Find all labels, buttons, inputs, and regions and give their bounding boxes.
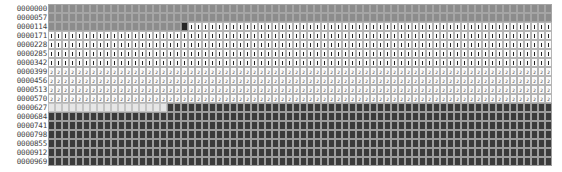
cluster-cell-d[interactable]	[230, 121, 237, 130]
cluster-cell-d[interactable]	[167, 103, 174, 112]
cluster-cell-f1[interactable]	[118, 40, 125, 49]
cluster-cell-u[interactable]	[153, 22, 160, 31]
cluster-cell-f2[interactable]: 2	[447, 85, 454, 94]
cluster-cell-u[interactable]	[475, 13, 482, 22]
cluster-cell-d[interactable]	[69, 148, 76, 157]
cluster-cell-f1[interactable]	[258, 40, 265, 49]
cluster-cell-f1[interactable]	[272, 58, 279, 67]
cluster-cell-d[interactable]	[188, 157, 195, 166]
cluster-cell-f1[interactable]	[83, 31, 90, 40]
cluster-cell-d[interactable]	[230, 139, 237, 148]
cluster-cell-f1[interactable]	[335, 58, 342, 67]
cluster-cell-d[interactable]	[118, 139, 125, 148]
cluster-cell-d[interactable]	[55, 112, 62, 121]
cluster-cell-f2[interactable]: 2	[104, 67, 111, 76]
cluster-cell-u[interactable]	[433, 13, 440, 22]
cluster-cell-u[interactable]	[328, 4, 335, 13]
cluster-cell-f1[interactable]	[314, 40, 321, 49]
cluster-cell-f1[interactable]	[419, 31, 426, 40]
cluster-cell-f1[interactable]	[48, 40, 55, 49]
cluster-cell-d[interactable]	[370, 130, 377, 139]
cluster-cell-u[interactable]	[223, 4, 230, 13]
cluster-cell-f1[interactable]	[48, 31, 55, 40]
cluster-cell-d[interactable]	[167, 130, 174, 139]
cluster-cell-d[interactable]	[426, 121, 433, 130]
cluster-cell-f1[interactable]	[335, 22, 342, 31]
cluster-cell-f1[interactable]	[468, 31, 475, 40]
cluster-cell-f2[interactable]: 2	[48, 76, 55, 85]
cluster-cell-d[interactable]	[195, 103, 202, 112]
cluster-cell-u[interactable]	[160, 22, 167, 31]
cluster-cell-d[interactable]	[531, 139, 538, 148]
cluster-cell-u[interactable]	[202, 13, 209, 22]
cluster-cell-f2[interactable]: 2	[209, 94, 216, 103]
cluster-cell-d[interactable]	[419, 112, 426, 121]
cluster-cell-d[interactable]	[139, 139, 146, 148]
cluster-cell-d[interactable]	[62, 130, 69, 139]
cluster-cell-f2[interactable]: 2	[265, 85, 272, 94]
cluster-cell-d[interactable]	[300, 121, 307, 130]
cluster-cell-d[interactable]	[517, 130, 524, 139]
cluster-cell-f1[interactable]	[146, 58, 153, 67]
cluster-cell-f2[interactable]: 2	[55, 67, 62, 76]
cluster-cell-f2[interactable]: 2	[258, 94, 265, 103]
cluster-cell-d[interactable]	[160, 148, 167, 157]
cluster-cell-f2[interactable]: 2	[342, 67, 349, 76]
cluster-cell-d[interactable]	[55, 139, 62, 148]
cluster-cell-f2[interactable]: 2	[363, 94, 370, 103]
cluster-cell-d[interactable]	[349, 121, 356, 130]
cluster-cell-d[interactable]	[118, 130, 125, 139]
cluster-cell-d[interactable]	[209, 130, 216, 139]
cluster-cell-u[interactable]	[321, 4, 328, 13]
cluster-cell-f1[interactable]	[293, 49, 300, 58]
cluster-cell-u[interactable]	[125, 22, 132, 31]
cluster-cell-f1[interactable]	[538, 40, 545, 49]
cluster-cell-f1[interactable]	[426, 22, 433, 31]
cluster-cell-f2[interactable]: 2	[356, 67, 363, 76]
cluster-cell-e[interactable]	[69, 103, 76, 112]
cluster-cell-u[interactable]	[230, 13, 237, 22]
cluster-cell-d[interactable]	[97, 157, 104, 166]
cluster-cell-u[interactable]	[468, 13, 475, 22]
cluster-cell-d[interactable]	[195, 130, 202, 139]
cluster-cell-d[interactable]	[146, 112, 153, 121]
cluster-cell-f1[interactable]	[132, 49, 139, 58]
cluster-cell-d[interactable]	[223, 121, 230, 130]
cluster-cell-f2[interactable]: 2	[538, 76, 545, 85]
cluster-cell-f2[interactable]: 2	[223, 67, 230, 76]
cluster-cell-f1[interactable]	[237, 58, 244, 67]
cluster-cell-u[interactable]	[209, 4, 216, 13]
cluster-cell-d[interactable]	[489, 103, 496, 112]
cluster-cell-d[interactable]	[419, 121, 426, 130]
cluster-cell-f2[interactable]: 2	[384, 67, 391, 76]
cluster-cell-f2[interactable]: 2	[132, 94, 139, 103]
cluster-cell-f1[interactable]	[97, 49, 104, 58]
cluster-cell-f2[interactable]: 2	[111, 67, 118, 76]
cluster-cell-d[interactable]	[503, 121, 510, 130]
cluster-cell-d[interactable]	[209, 148, 216, 157]
cluster-cell-u[interactable]	[167, 4, 174, 13]
cluster-cell-f1[interactable]	[531, 31, 538, 40]
cluster-cell-f2[interactable]: 2	[69, 67, 76, 76]
cluster-cell-d[interactable]	[412, 112, 419, 121]
cluster-cell-f1[interactable]	[104, 31, 111, 40]
cluster-cell-f1[interactable]	[307, 40, 314, 49]
cluster-cell-u[interactable]	[426, 13, 433, 22]
cluster-cell-d[interactable]	[524, 112, 531, 121]
cluster-cell-d[interactable]	[496, 121, 503, 130]
cluster-cell-f2[interactable]: 2	[328, 94, 335, 103]
cluster-cell-f1[interactable]	[55, 40, 62, 49]
cluster-cell-u[interactable]	[146, 22, 153, 31]
cluster-cell-f1[interactable]	[83, 40, 90, 49]
cluster-cell-f2[interactable]: 2	[503, 94, 510, 103]
cluster-cell-u[interactable]	[76, 4, 83, 13]
cluster-cell-f1[interactable]	[230, 31, 237, 40]
cluster-cell-f1[interactable]	[300, 58, 307, 67]
cluster-cell-f1[interactable]	[90, 31, 97, 40]
cluster-cell-d[interactable]	[454, 148, 461, 157]
cluster-cell-d[interactable]	[62, 139, 69, 148]
cluster-cell-d[interactable]	[167, 148, 174, 157]
cluster-cell-u[interactable]	[286, 4, 293, 13]
cluster-cell-d[interactable]	[398, 112, 405, 121]
cluster-cell-f1[interactable]	[251, 40, 258, 49]
